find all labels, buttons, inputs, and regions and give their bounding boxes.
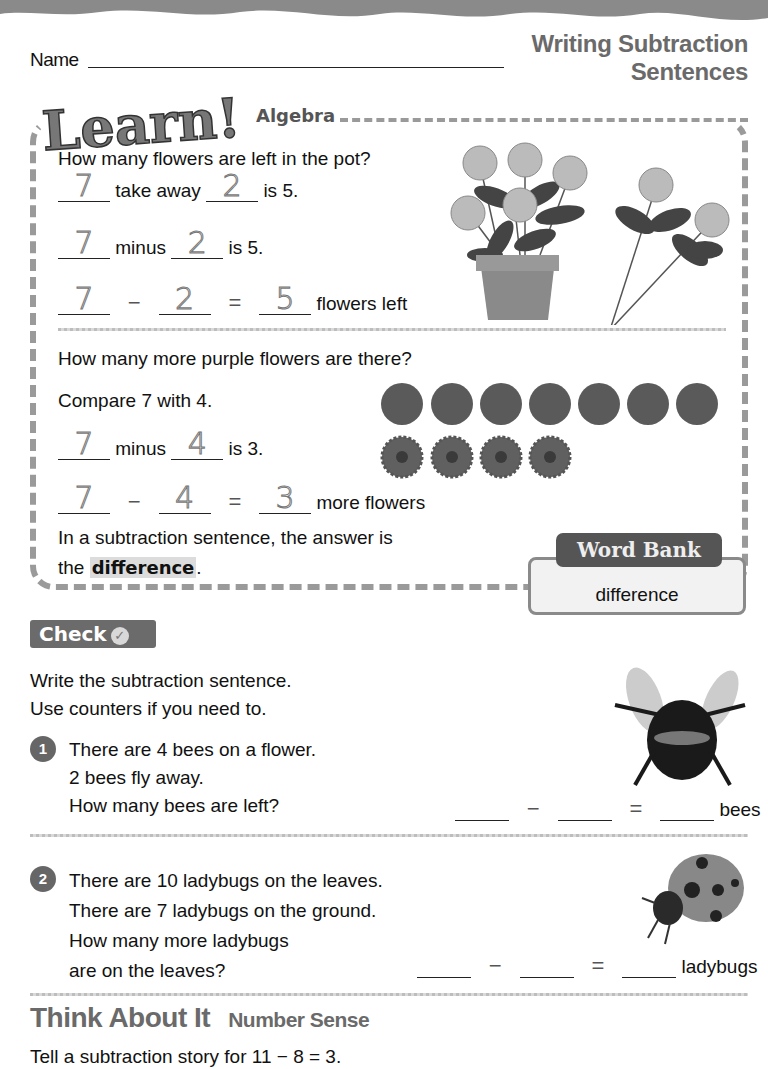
answer-blank[interactable]: 5: [259, 285, 311, 315]
answer-blank[interactable]: [520, 958, 574, 978]
word-bank-title: Word Bank: [556, 533, 722, 567]
problem-line: There are 10 ladybugs on the leaves.: [69, 866, 383, 896]
definition-period: .: [196, 557, 201, 578]
think-subtitle: Number Sense: [228, 1008, 369, 1031]
answer-blank[interactable]: 7: [58, 430, 110, 460]
question-flowers-left: How many flowers are left in the pot?: [58, 148, 371, 170]
check-instruction-2: Use counters if you need to.: [30, 698, 267, 720]
definition-text: the: [58, 557, 84, 578]
name-field[interactable]: [88, 67, 504, 68]
definition-line-2: the difference.: [58, 557, 202, 579]
checkmark-icon: ✓: [111, 627, 129, 645]
problem-line: How many bees are left?: [69, 792, 316, 820]
answer-blank[interactable]: 3: [259, 484, 311, 514]
problem-line: How many more ladybugs: [69, 926, 383, 956]
think-title: Think About It: [30, 1002, 210, 1033]
think-divider: [30, 993, 748, 996]
learn-box-top-border: [340, 118, 748, 122]
definition-line-1: In a subtraction sentence, the answer is: [58, 527, 393, 549]
learn-logo: Learn!: [36, 85, 258, 157]
problem-number-badge: 2: [30, 866, 56, 892]
answer-blank[interactable]: [558, 801, 612, 821]
problem-line: There are 7 ladybugs on the ground.: [69, 896, 383, 926]
section-divider: [58, 328, 726, 331]
traced-digit: 4: [171, 429, 223, 459]
purple-flower-icon: [431, 383, 473, 425]
purple-flower-icon: [480, 383, 522, 425]
traced-digit: 7: [58, 483, 110, 513]
traced-digit: 5: [259, 284, 311, 314]
problem-number-badge: 1: [30, 736, 56, 762]
title-line-1: Writing Subtraction: [531, 30, 748, 58]
answer-blank[interactable]: 4: [159, 484, 211, 514]
think-about-it-heading: Think About ItNumber Sense: [30, 1002, 369, 1034]
answer-blank[interactable]: 2: [171, 229, 223, 259]
unit-label: ladybugs: [681, 956, 757, 977]
answer-blank[interactable]: 2: [159, 285, 211, 315]
answer-blank[interactable]: 7: [58, 484, 110, 514]
answer-blank[interactable]: [660, 801, 714, 821]
equation-row-5: 7 − 4 = 3 more flowers: [58, 484, 425, 514]
problem-line: are on the leaves?: [69, 956, 383, 986]
unit-label: bees: [719, 799, 760, 820]
sentence-tail: is 5.: [263, 180, 298, 201]
traced-digit: 7: [58, 228, 110, 258]
answer-blank[interactable]: 2: [206, 172, 258, 202]
answer-blank[interactable]: [622, 958, 676, 978]
traced-digit: 4: [159, 483, 211, 513]
traced-digit: 7: [58, 429, 110, 459]
answer-blank[interactable]: 7: [58, 229, 110, 259]
sentence-tail: more flowers: [316, 492, 425, 513]
bee-image: [600, 660, 748, 790]
name-label: Name: [30, 49, 79, 71]
sentence-row-2: 7 minus 2 is 5.: [58, 229, 263, 259]
answer-blank[interactable]: [417, 958, 471, 978]
check-section-header: Check✓: [30, 620, 156, 648]
check-instruction-1: Write the subtraction sentence.: [30, 670, 292, 692]
compare-text: Compare 7 with 4.: [58, 390, 212, 412]
word-minus: minus: [115, 438, 166, 459]
equation-row-3: 7 − 2 = 5 flowers left: [58, 285, 407, 315]
purple-flower-icon: [529, 383, 571, 425]
compare-flowers-illustration: [378, 380, 724, 484]
flower-pot-illustration: [440, 125, 740, 325]
sentence-row-4: 7 minus 4 is 3.: [58, 430, 263, 460]
header-wave-banner: [0, 0, 768, 32]
sentence-tail: flowers left: [316, 293, 407, 314]
answer-blank[interactable]: 7: [58, 172, 110, 202]
minus-sign: −: [115, 491, 153, 513]
sentence-tail: is 5.: [229, 237, 264, 258]
problem-number: 1: [30, 736, 56, 762]
traced-digit: 3: [259, 483, 311, 513]
word-minus: minus: [115, 237, 166, 258]
think-prompt: Tell a subtraction story for 11 − 8 = 3.: [30, 1046, 341, 1068]
ladybug-image: [640, 848, 750, 948]
sentence-tail: is 3.: [229, 438, 264, 459]
problem-1-equation: − = bees: [455, 798, 761, 821]
minus-sign: −: [476, 955, 514, 977]
svg-text:Learn!: Learn!: [40, 85, 243, 157]
equals-sign: =: [617, 798, 655, 820]
problem-divider: [30, 834, 748, 837]
word-bank-word: difference: [595, 584, 678, 605]
title-line-2: Sentences: [531, 58, 748, 86]
answer-blank[interactable]: [455, 801, 509, 821]
page-title: Writing Subtraction Sentences: [531, 30, 748, 86]
traced-digit: 2: [206, 171, 258, 201]
problem-line: 2 bees fly away.: [69, 764, 316, 792]
purple-flower-icon: [381, 383, 423, 425]
traced-digit: 2: [159, 284, 211, 314]
check-label: Check: [39, 622, 107, 646]
answer-blank[interactable]: 4: [171, 430, 223, 460]
problem-1-text: There are 4 bees on a flower. 2 bees fly…: [69, 736, 316, 820]
traced-digit: 7: [58, 284, 110, 314]
problem-2-equation: − = ladybugs: [417, 955, 757, 978]
equals-sign: =: [216, 491, 254, 513]
equals-sign: =: [579, 955, 617, 977]
traced-digit: 7: [58, 171, 110, 201]
purple-flower-icon: [578, 383, 620, 425]
answer-blank[interactable]: 7: [58, 285, 110, 315]
algebra-label: Algebra: [256, 105, 335, 126]
equals-sign: =: [216, 292, 254, 314]
question-purple-flowers: How many more purple flowers are there?: [58, 348, 412, 370]
